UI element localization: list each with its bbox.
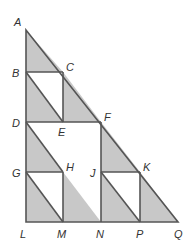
label-E: E — [58, 126, 66, 138]
label-C: C — [66, 61, 74, 73]
triangle-CEF — [63, 72, 101, 122]
label-J: J — [89, 167, 96, 179]
label-L: L — [20, 228, 26, 240]
label-M: M — [57, 228, 67, 240]
label-A: A — [13, 16, 21, 28]
triangle-FJK — [101, 122, 140, 172]
label-B: B — [12, 67, 19, 79]
label-Q: Q — [174, 228, 183, 240]
label-N: N — [96, 228, 104, 240]
label-K: K — [143, 161, 151, 173]
label-G: G — [12, 167, 21, 179]
label-H: H — [66, 161, 74, 173]
label-D: D — [12, 117, 20, 129]
label-F: F — [104, 111, 112, 123]
triangle-HMN — [63, 172, 101, 222]
triangle-diagram: A B C D E F G H J K L M N P Q — [0, 0, 194, 246]
label-P: P — [136, 228, 144, 240]
